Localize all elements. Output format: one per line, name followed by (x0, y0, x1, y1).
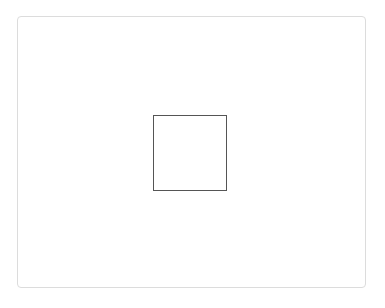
square-shape[interactable] (153, 115, 227, 191)
